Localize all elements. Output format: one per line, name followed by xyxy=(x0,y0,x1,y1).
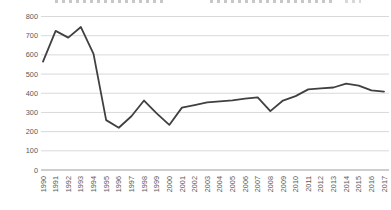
x-tick-label-2001: 2001 xyxy=(178,176,187,192)
chart-screenshot: 8007006005004003002001000199019911992199… xyxy=(0,0,391,210)
y-tick-label-200: 200 xyxy=(26,127,38,136)
y-tick-label-800: 800 xyxy=(26,12,38,21)
x-tick-label-1999: 1999 xyxy=(152,176,161,192)
x-tick-label-2014: 2014 xyxy=(342,176,351,192)
y-tick-label-400: 400 xyxy=(26,89,38,98)
x-tick-label-2002: 2002 xyxy=(190,176,199,192)
x-tick-label-1993: 1993 xyxy=(76,176,85,192)
x-tick-label-1990: 1990 xyxy=(39,176,48,192)
y-tick-label-0: 0 xyxy=(34,166,38,175)
x-tick-label-2003: 2003 xyxy=(203,176,212,192)
x-tick-label-1991: 1991 xyxy=(51,176,60,192)
x-tick-label-2017: 2017 xyxy=(380,176,389,192)
x-tick-label-2013: 2013 xyxy=(329,176,338,192)
x-tick-label-1996: 1996 xyxy=(114,176,123,192)
x-tick-label-2004: 2004 xyxy=(215,176,224,192)
price-line-chart: 8007006005004003002001000199019911992199… xyxy=(0,0,391,210)
x-tick-label-2007: 2007 xyxy=(253,176,262,192)
x-tick-label-2005: 2005 xyxy=(228,176,237,192)
y-tick-label-100: 100 xyxy=(26,146,38,155)
x-tick-label-2008: 2008 xyxy=(266,176,275,192)
y-tick-label-500: 500 xyxy=(26,70,38,79)
x-tick-label-1995: 1995 xyxy=(102,176,111,192)
x-tick-label-2009: 2009 xyxy=(279,176,288,192)
x-tick-label-1998: 1998 xyxy=(140,176,149,192)
x-tick-label-2000: 2000 xyxy=(165,176,174,192)
x-tick-label-2016: 2016 xyxy=(367,176,376,192)
x-tick-label-2006: 2006 xyxy=(241,176,250,192)
x-tick-label-2010: 2010 xyxy=(291,176,300,192)
x-tick-label-2012: 2012 xyxy=(316,176,325,192)
y-tick-label-700: 700 xyxy=(26,31,38,40)
y-tick-label-300: 300 xyxy=(26,108,38,117)
x-tick-label-1992: 1992 xyxy=(64,176,73,192)
x-tick-label-1997: 1997 xyxy=(127,176,136,192)
y-tick-label-600: 600 xyxy=(26,50,38,59)
x-tick-label-1994: 1994 xyxy=(89,176,98,192)
x-tick-label-2011: 2011 xyxy=(304,176,313,192)
x-tick-label-2015: 2015 xyxy=(354,176,363,192)
